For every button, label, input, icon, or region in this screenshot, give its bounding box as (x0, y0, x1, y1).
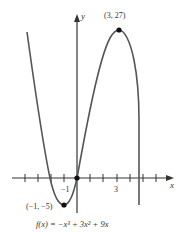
y-axis-arrow-icon (74, 14, 80, 22)
function-graph: y x −1 3 (3, 27) (−1, −5) f(x) = −x³ + 3… (0, 0, 182, 232)
min-point (61, 202, 66, 207)
tick-label-neg1: −1 (61, 185, 70, 194)
function-curve (27, 30, 139, 205)
y-axis-label: y (80, 11, 85, 21)
max-point-label: (3, 27) (104, 11, 126, 20)
x-axis-label: x (169, 180, 174, 190)
min-point-label: (−1, −5) (26, 202, 53, 211)
origin-point (74, 175, 79, 180)
tick-label-3: 3 (114, 185, 118, 194)
max-point (116, 27, 121, 32)
function-label: f(x) = −x³ + 3x² + 9x (36, 219, 109, 229)
